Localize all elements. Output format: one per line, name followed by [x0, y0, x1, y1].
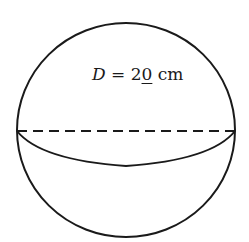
diameter-label: D = 20 cm — [92, 64, 183, 84]
sphere-diagram — [0, 0, 249, 242]
diameter-unit: cm — [152, 64, 183, 84]
equals-sign: = — [106, 64, 131, 84]
equator-front-arc — [17, 131, 235, 166]
diameter-variable: D — [92, 64, 106, 84]
diameter-value-underlined-digit: 0 — [142, 64, 153, 84]
diameter-value-prefix: 2 — [131, 64, 142, 84]
